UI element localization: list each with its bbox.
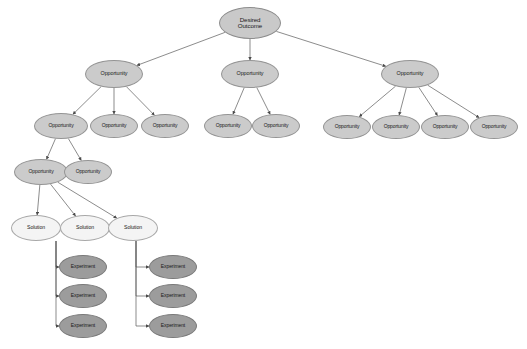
edge-opp_l-opp_l1 <box>73 87 101 115</box>
edge-outcome-opp_r <box>276 31 385 66</box>
node-opportunity[interactable]: Opportunity <box>34 113 88 139</box>
node-opportunity[interactable]: Opportunity <box>381 60 439 88</box>
node-label: Opportunity <box>253 123 299 128</box>
node-opportunity[interactable]: Opportunity <box>372 115 420 139</box>
node-opportunity[interactable]: Opportunity <box>470 115 518 139</box>
edge-sol_1-exp_a1 <box>56 241 59 267</box>
node-opportunity[interactable]: Opportunity <box>64 160 112 184</box>
node-label: Experiment <box>150 323 196 328</box>
edge-opp_r-opp_r4 <box>428 85 479 117</box>
node-label: Opportunity <box>205 123 251 128</box>
node-label: Opportunity <box>422 124 468 129</box>
edge-opp_ll1-sol_3 <box>58 182 117 218</box>
edge-opp_m-opp_m2 <box>257 88 270 115</box>
node-label: Solution <box>109 225 157 230</box>
node-opportunity[interactable]: Opportunity <box>421 115 469 139</box>
node-label: Solution <box>12 225 60 230</box>
node-label: Opportunity <box>91 123 137 128</box>
node-label: Opportunity <box>222 71 278 77</box>
edge-sol_1-exp_a3 <box>56 241 59 326</box>
node-opportunity[interactable]: Opportunity <box>252 114 300 138</box>
node-opportunity[interactable]: Opportunity <box>221 60 279 88</box>
node-outcome[interactable]: DesiredOutcome <box>219 7 281 39</box>
edge-opp_l-opp_l3 <box>126 87 154 116</box>
node-label: Experiment <box>60 293 106 298</box>
edge-opp_ll1-sol_2 <box>51 184 76 216</box>
node-opportunity[interactable]: Opportunity <box>141 114 189 138</box>
node-label: Opportunity <box>142 123 188 128</box>
node-label: Experiment <box>60 264 106 269</box>
node-label: Experiment <box>60 323 106 328</box>
node-label: Opportunity <box>35 123 87 128</box>
edge-sol_3-exp_b3 <box>136 241 149 326</box>
node-label: Experiment <box>150 293 196 298</box>
edge-opp_ll1-sol_1 <box>37 185 40 215</box>
node-experiment[interactable]: Experiment <box>149 314 197 338</box>
node-label: Opportunity <box>15 169 67 174</box>
node-experiment[interactable]: Experiment <box>149 255 197 279</box>
node-opportunity[interactable]: Opportunity <box>323 115 371 139</box>
node-label: Experiment <box>150 264 196 269</box>
node-experiment[interactable]: Experiment <box>149 284 197 308</box>
edge-opp_r-opp_r2 <box>399 88 406 115</box>
node-opportunity[interactable]: Opportunity <box>204 114 252 138</box>
node-experiment[interactable]: Experiment <box>59 284 107 308</box>
node-experiment[interactable]: Experiment <box>59 255 107 279</box>
node-experiment[interactable]: Experiment <box>59 314 107 338</box>
edge-opp_r-opp_r1 <box>359 86 395 117</box>
node-solution[interactable]: Solution <box>60 215 110 241</box>
node-label: Opportunity <box>65 169 111 174</box>
node-label: Opportunity <box>86 71 142 77</box>
node-solution[interactable]: Solution <box>11 215 61 241</box>
node-opportunity[interactable]: Opportunity <box>90 114 138 138</box>
edge-opp_r-opp_r3 <box>419 87 438 115</box>
edge-opp_l1-opp_ll1 <box>47 139 56 160</box>
node-opportunity[interactable]: Opportunity <box>85 60 143 88</box>
edge-opp_m-opp_m1 <box>233 88 244 115</box>
edge-opp_l1-opp_ll2 <box>68 139 81 161</box>
diagram-canvas: DesiredOutcomeOpportunityOpportunityOppo… <box>0 0 527 349</box>
edge-outcome-opp_l <box>137 32 225 65</box>
node-label: Opportunity <box>471 124 517 129</box>
node-label: DesiredOutcome <box>220 17 280 30</box>
node-label: Opportunity <box>324 124 370 129</box>
node-label: Opportunity <box>373 124 419 129</box>
edge-sol_3-exp_b2 <box>136 241 149 296</box>
node-opportunity[interactable]: Opportunity <box>14 159 68 185</box>
edge-sol_3-exp_b1 <box>136 241 149 267</box>
node-label: Opportunity <box>382 71 438 77</box>
node-solution[interactable]: Solution <box>108 215 158 241</box>
node-label: Solution <box>61 225 109 230</box>
